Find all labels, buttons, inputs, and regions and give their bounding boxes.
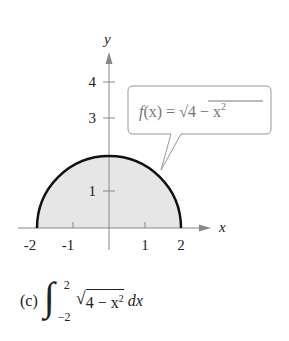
integral-caption: (c) ∫ 2 −2 √ 4 − x2 dx (20, 276, 143, 326)
integral: ∫ 2 −2 (44, 276, 72, 326)
lower-limit: −2 (58, 310, 71, 325)
x-tick-label: -2 (24, 237, 37, 253)
upper-limit: 2 (64, 278, 70, 293)
function-label: f(x) = √4 − x2 (139, 101, 226, 121)
y-tick-label: 3 (89, 110, 97, 126)
x-axis-arrow-icon (199, 225, 211, 232)
y-axis-label: y (102, 31, 111, 47)
y-axis-arrow-icon (106, 52, 113, 64)
radicand-text: 4 − x (86, 295, 119, 312)
radical-icon: √ (76, 289, 86, 307)
integral-sign-icon: ∫ (44, 272, 55, 322)
integrand: √ 4 − x2 (76, 289, 124, 312)
differential: dx (128, 292, 143, 310)
radicand: 4 − x2 (86, 289, 124, 312)
exponent: 2 (119, 293, 124, 304)
function-callout (128, 86, 271, 170)
y-tick-label: 4 (89, 74, 97, 90)
y-tick-label: 1 (89, 183, 97, 199)
x-tick-label: 1 (141, 237, 149, 253)
x-tick-label: -1 (62, 237, 75, 253)
part-label: (c) (20, 292, 38, 310)
x-tick-label: 2 (177, 237, 185, 253)
x-axis-label: x (218, 219, 226, 235)
